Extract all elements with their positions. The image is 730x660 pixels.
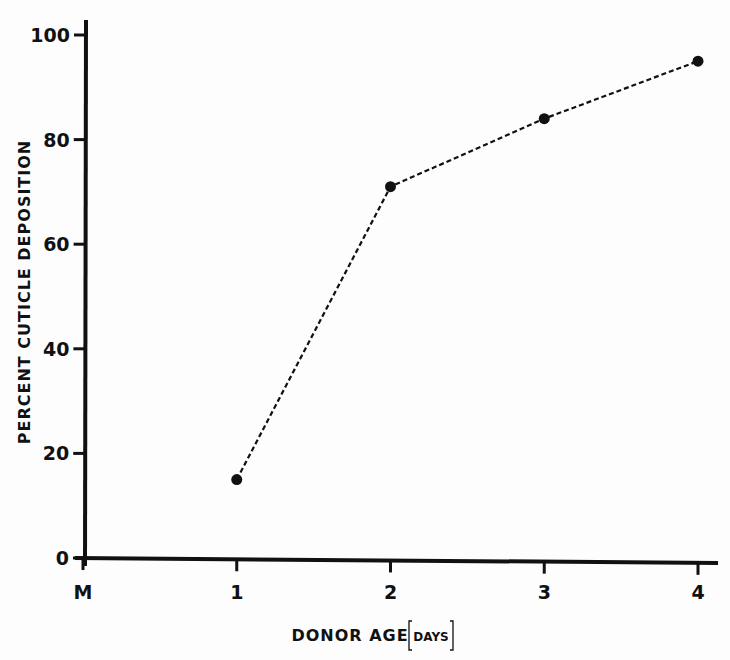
data-point-marker [693, 56, 704, 67]
x-axis-title-group: DONOR AGE DAYS [291, 621, 453, 650]
x-tick-label: 2 [384, 581, 397, 603]
y-axis [85, 20, 86, 566]
data-points [231, 56, 703, 485]
y-tick-label: 60 [43, 233, 69, 255]
y-tick-label: 100 [30, 24, 70, 46]
data-point-marker [539, 113, 550, 124]
y-ticks: 020406080100 [30, 24, 86, 569]
x-axis [75, 558, 718, 563]
x-ticks: M1234 [74, 558, 705, 603]
data-point-marker [385, 181, 396, 192]
y-tick-label: 80 [43, 129, 69, 151]
data-line [237, 61, 698, 479]
data-point-marker [231, 474, 242, 485]
line-chart: 020406080100 M1234 PERCENT CUTICLE DEPOS… [0, 0, 730, 660]
y-tick-label: 20 [43, 442, 69, 464]
y-tick-label: 0 [56, 547, 69, 569]
bracket-right [450, 621, 453, 650]
x-tick-label: M [74, 581, 93, 603]
y-axis-title: PERCENT CUTICLE DEPOSITION [15, 140, 34, 444]
x-tick-label: 1 [230, 581, 243, 603]
x-axis-title: DONOR AGE [291, 626, 408, 645]
y-tick-label: 40 [43, 338, 69, 360]
x-tick-label: 3 [538, 581, 551, 603]
x-tick-label: 4 [691, 581, 704, 603]
bracket-left [409, 621, 412, 650]
x-axis-unit: DAYS [413, 630, 448, 644]
